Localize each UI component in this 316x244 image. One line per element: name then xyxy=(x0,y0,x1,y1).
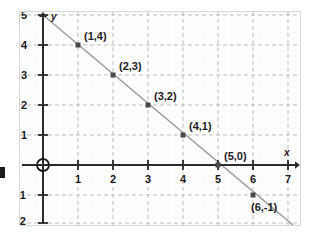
y-axis-name: y xyxy=(51,12,57,22)
y-tick-label-3: 3 xyxy=(21,70,27,81)
point-label-6-neg1: (6,-1) xyxy=(251,202,277,213)
data-point xyxy=(111,73,116,78)
point-label-1-4: (1,4) xyxy=(84,31,107,42)
point-label-5-0: (5,0) xyxy=(224,151,247,162)
y-tick-label-neg2: -2 xyxy=(19,216,26,226)
data-point xyxy=(216,163,221,168)
plot-area: 5 4 3 2 1 -1 -2 1 2 3 4 5 6 7 y x (1,4) … xyxy=(19,11,301,226)
x-tick-label-2: 2 xyxy=(110,174,116,185)
data-point xyxy=(181,133,186,138)
left-edge-artifact xyxy=(0,167,5,178)
x-tick-label-7: 7 xyxy=(285,174,291,185)
x-tick-label-6: 6 xyxy=(250,174,256,185)
minor-grid xyxy=(20,12,300,225)
y-tick-label-2: 2 xyxy=(21,100,27,111)
data-point xyxy=(146,103,151,108)
figure-canvas: 5 4 3 2 1 -1 -2 1 2 3 4 5 6 7 y x (1,4) … xyxy=(0,0,316,244)
y-tick-label-5: 5 xyxy=(21,11,27,21)
point-label-4-1: (4,1) xyxy=(189,121,212,132)
point-label-3-2: (3,2) xyxy=(154,91,177,102)
data-point xyxy=(251,193,256,198)
point-label-2-3: (2,3) xyxy=(119,61,142,72)
data-point xyxy=(76,43,81,48)
y-tick-label-1: 1 xyxy=(21,130,27,141)
x-tick-label-5: 5 xyxy=(215,174,221,185)
x-tick-label-3: 3 xyxy=(145,174,151,185)
x-tick-label-4: 4 xyxy=(180,174,186,185)
x-tick-label-1: 1 xyxy=(75,174,81,185)
y-tick-label-4: 4 xyxy=(21,40,27,51)
x-axis-name: x xyxy=(284,148,290,158)
y-tick-label-neg1: -1 xyxy=(19,190,26,201)
graph-svg xyxy=(20,12,300,225)
